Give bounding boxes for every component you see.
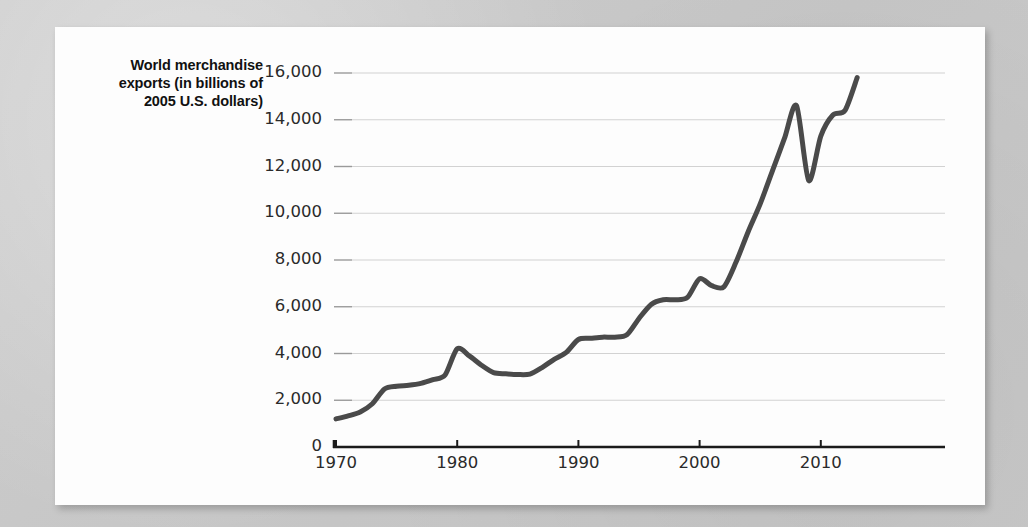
x-axis-label-2000: 2000 (660, 453, 740, 472)
data-line-world-merchandise-exports (336, 78, 857, 419)
y-axis-ticks (334, 73, 352, 400)
y-axis-label-6000: 6,000 (236, 296, 322, 315)
y-axis-label-8000: 8,000 (236, 249, 322, 268)
y-axis-label-4000: 4,000 (236, 343, 322, 362)
x-axis-label-1970: 1970 (296, 453, 376, 472)
x-axis-label-1980: 1980 (417, 453, 497, 472)
line-chart (0, 0, 1028, 527)
y-axis-label-10000: 10,000 (236, 202, 322, 221)
y-axis-label-2000: 2,000 (236, 389, 322, 408)
y-axis-label-12000: 12,000 (236, 156, 322, 175)
y-axis-label-14000: 14,000 (236, 109, 322, 128)
y-axis-label-16000: 16,000 (236, 62, 322, 81)
x-axis-label-2010: 2010 (781, 453, 861, 472)
gridlines (352, 73, 945, 400)
x-axis-label-1990: 1990 (538, 453, 618, 472)
